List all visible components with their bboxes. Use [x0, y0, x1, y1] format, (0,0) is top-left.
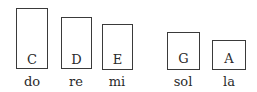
note-box-e: E — [102, 24, 133, 70]
note-label: sol — [163, 74, 203, 89]
note-label: do — [12, 74, 52, 89]
note-letter: D — [62, 52, 91, 67]
note-letter: C — [17, 52, 47, 67]
note-letter: G — [168, 51, 199, 66]
note-letter: E — [103, 52, 132, 67]
note-label: re — [56, 74, 96, 89]
note-letter: A — [213, 51, 245, 66]
note-label: la — [209, 74, 249, 89]
note-box-a: A — [212, 40, 246, 70]
note-box-c: C — [16, 8, 48, 69]
note-box-g: G — [167, 32, 200, 70]
note-box-d: D — [61, 17, 92, 69]
note-label: mi — [97, 74, 137, 89]
